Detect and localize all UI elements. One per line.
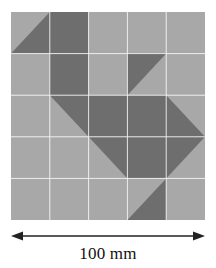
grid-cell-r5-c1: [11, 178, 50, 220]
grid-cells: [11, 12, 205, 220]
grid-cell-r3-c1: [11, 95, 50, 137]
grid-cell-r4-c2: [50, 137, 89, 179]
grid-cell-r3-c3: [89, 95, 128, 137]
dimension-arrow-head-left: [11, 231, 23, 240]
grid-panel: [11, 12, 205, 220]
dimension-arrow-svg: [11, 228, 205, 244]
dimensioned-grid-figure: 100 mm: [0, 0, 216, 268]
grid-cell-r1-c3: [89, 12, 128, 54]
grid-cell-r5-c3: [89, 178, 128, 220]
grid-cell-r1-c5: [166, 12, 205, 54]
dimension-arrow: [11, 228, 205, 244]
dimension-arrow-head-right: [193, 231, 205, 240]
grid-cell-r5-c2: [50, 178, 89, 220]
grid-cell-r4-c4: [127, 137, 166, 179]
grid-cell-r2-c3: [89, 54, 128, 96]
dimension-label: 100 mm: [0, 243, 216, 264]
grid-cell-r1-c2: [50, 12, 89, 54]
grid-cell-r2-c1: [11, 54, 50, 96]
grid-cell-r5-c5: [166, 178, 205, 220]
grid-cell-r1-c4: [127, 12, 166, 54]
grid-svg: [11, 12, 205, 220]
grid-cell-r2-c5: [166, 54, 205, 96]
grid-cell-r4-c1: [11, 137, 50, 179]
grid-cell-r2-c2: [50, 54, 89, 96]
grid-cell-r3-c4: [127, 95, 166, 137]
